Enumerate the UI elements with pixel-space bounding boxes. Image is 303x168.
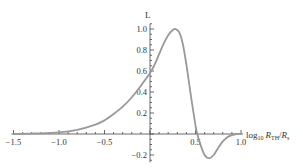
x-tick-label: −1.0	[51, 137, 66, 147]
x-tick-label: 1.0	[236, 137, 247, 147]
y-tick-label: 1.0	[136, 24, 147, 34]
line-chart: −1.5−1.0−0.50.51.01.00.80.60.40.2−0.2 L …	[0, 0, 303, 168]
data-curve	[14, 29, 242, 158]
y-tick-label: 0.8	[136, 45, 147, 55]
y-tick-label: 0.6	[136, 66, 147, 76]
x-tick-label: −0.5	[97, 137, 112, 147]
axes	[12, 24, 244, 163]
ticks: −1.5−1.0−0.50.51.01.00.80.60.40.2−0.2	[6, 24, 247, 161]
y-tick-label: 0.2	[136, 108, 147, 118]
x-tick-label: −1.5	[6, 137, 21, 147]
x-axis-title: log10RTH/Rs	[246, 130, 290, 141]
y-axis-title: L	[145, 10, 151, 20]
y-tick-label: −0.2	[132, 150, 147, 160]
